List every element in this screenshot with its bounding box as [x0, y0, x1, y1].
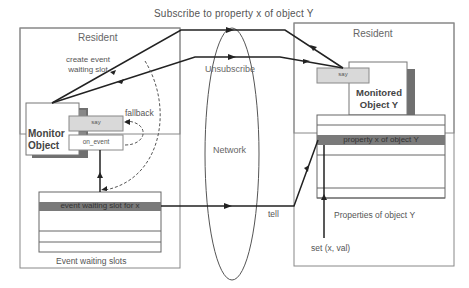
left-resident-label: Resident	[78, 32, 117, 43]
say-method-right: say	[317, 71, 369, 77]
diagram-title: Subscribe to property x of object Y	[154, 8, 314, 19]
monitored-object-label: Monitored Object Y	[351, 87, 407, 111]
event-slots-caption: Event waiting slots	[56, 256, 126, 266]
on-event-method: on_event	[69, 138, 123, 145]
fallback-label: fallback	[125, 108, 154, 118]
set-label: set (x, val)	[311, 243, 350, 253]
network-label: Network	[213, 145, 246, 155]
say-method-left: say	[69, 119, 123, 125]
tell-label: tell	[268, 209, 279, 219]
event-slot-highlight-row: event waiting slot for x	[39, 201, 161, 210]
property-highlight-row: property x of object Y	[317, 135, 445, 144]
unsubscribe-label: Unsubscribe	[205, 64, 255, 74]
create-event-label: create event waiting slot	[66, 55, 110, 75]
properties-caption: Properties of object Y	[334, 210, 415, 220]
monitor-object-label: Monitor Object	[28, 128, 65, 152]
right-resident-label: Resident	[353, 28, 392, 39]
